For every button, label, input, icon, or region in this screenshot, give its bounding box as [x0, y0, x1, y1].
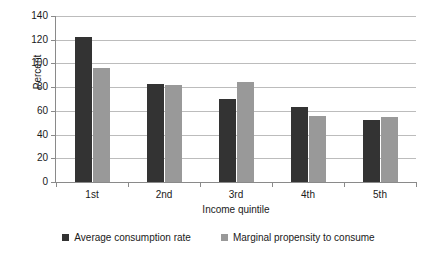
y-tick-label: 20	[14, 153, 48, 163]
legend-entry-0: Average consumption rate	[62, 232, 191, 243]
y-tick-label: 80	[14, 82, 48, 92]
bar-2nd-series-0	[147, 84, 164, 182]
legend-swatch-icon	[221, 234, 228, 241]
x-tick-mark	[344, 182, 345, 187]
bar-group-5th	[363, 16, 398, 182]
bar-5th-series-0	[363, 120, 380, 182]
y-tick-label: 100	[14, 58, 48, 68]
bar-5th-series-1	[381, 117, 398, 182]
legend-label: Marginal propensity to consume	[233, 232, 375, 243]
x-tick-mark	[272, 182, 273, 187]
legend-label: Average consumption rate	[74, 232, 191, 243]
y-tick-label: 140	[14, 11, 48, 21]
x-tick-mark	[416, 182, 417, 187]
bar-3rd-series-1	[237, 82, 254, 182]
bar-group-4th	[291, 16, 326, 182]
bar-4th-series-0	[291, 107, 308, 182]
x-tick-mark	[56, 182, 57, 187]
bar-chart-figure: Percent 140120100806040200 Income quinti…	[0, 0, 437, 262]
x-tick-label-5th: 5th	[350, 189, 410, 201]
bar-group-1st	[75, 16, 110, 182]
x-axis-line	[56, 182, 416, 183]
x-tick-mark	[128, 182, 129, 187]
x-tick-label-4th: 4th	[278, 189, 338, 201]
y-tick-label: 40	[14, 130, 48, 140]
bar-3rd-series-0	[219, 99, 236, 182]
legend-entry-1: Marginal propensity to consume	[221, 232, 375, 243]
chart-legend: Average consumption rateMarginal propens…	[0, 232, 437, 243]
legend-swatch-icon	[62, 234, 69, 241]
x-axis-title: Income quintile	[56, 204, 416, 215]
y-axis-ticks: 140120100806040200	[0, 16, 56, 183]
plot-area	[56, 16, 416, 182]
y-tick-label: 120	[14, 35, 48, 45]
bar-2nd-series-1	[165, 85, 182, 182]
bar-group-2nd	[147, 16, 182, 182]
y-tick-label: 60	[14, 106, 48, 116]
x-tick-mark	[200, 182, 201, 187]
bar-1st-series-0	[75, 37, 92, 182]
bar-1st-series-1	[93, 68, 110, 182]
y-tick-label: 0	[14, 177, 48, 187]
x-tick-label-1st: 1st	[62, 189, 122, 201]
bar-4th-series-1	[309, 116, 326, 182]
x-tick-label-2nd: 2nd	[134, 189, 194, 201]
x-tick-label-3rd: 3rd	[206, 189, 266, 201]
bar-group-3rd	[219, 16, 254, 182]
